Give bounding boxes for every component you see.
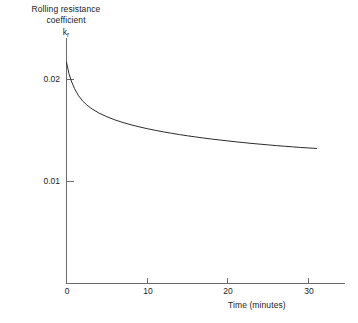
chart-figure: Rolling resistance coefficient kr 0.02 0… (0, 0, 358, 323)
y-tick-label-0.02: 0.02 (24, 74, 60, 84)
data-series-line (67, 62, 317, 148)
x-axis-title: Time (minutes) (228, 300, 286, 310)
x-tick-label-10: 10 (136, 286, 160, 296)
y-tick-label-0.01: 0.01 (24, 176, 60, 186)
plot-area (0, 0, 358, 323)
x-tick-label-30: 30 (297, 286, 321, 296)
x-tick-label-20: 20 (216, 286, 240, 296)
x-tick-label-0: 0 (55, 286, 79, 296)
